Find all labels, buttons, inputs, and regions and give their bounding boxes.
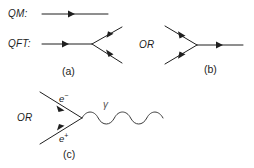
diagram-b-outgoing-arrowhead xyxy=(216,42,223,49)
label-electron-charge: − xyxy=(64,92,68,99)
label-photon: γ xyxy=(103,100,108,110)
label-positron: e+ xyxy=(59,134,68,144)
qft-incoming-arrowhead xyxy=(62,41,69,48)
caption-c: (c) xyxy=(63,149,75,160)
label-electron: e− xyxy=(59,94,68,104)
caption-b: (b) xyxy=(204,64,217,75)
qm-propagator-group xyxy=(42,11,108,18)
qm-propagator-arrowhead xyxy=(68,11,75,18)
feynman-diagram-figure: QM: QFT: (a) OR (b) OR e− e+ γ (c) xyxy=(0,0,254,168)
diagram-canvas xyxy=(0,0,254,168)
caption-a: (a) xyxy=(62,66,75,77)
qft-vertex-group xyxy=(42,27,122,63)
qft-outgoing-lower-line xyxy=(92,44,122,63)
label-or-c: OR xyxy=(17,113,32,123)
label-qm: QM: xyxy=(8,9,28,19)
label-or-b: OR xyxy=(139,40,154,50)
diagram-b-group xyxy=(165,26,243,64)
label-positron-charge: + xyxy=(64,132,68,139)
label-qft: QFT: xyxy=(8,39,31,49)
qft-outgoing-upper-line xyxy=(92,27,122,44)
photon-wavy-line xyxy=(82,112,163,124)
